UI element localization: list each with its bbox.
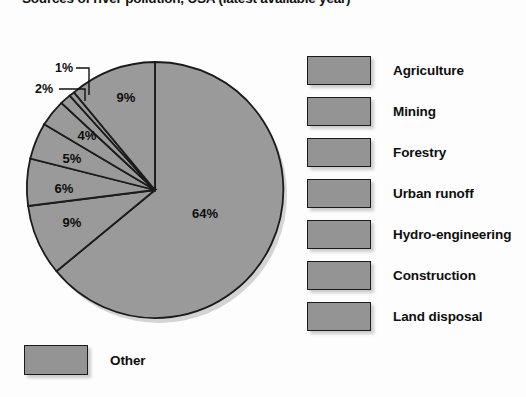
pie-label-urban-runoff: 4% (78, 128, 97, 143)
pie-label-land-disposal: 9% (117, 90, 136, 105)
legend-label-land-disposal: Land disposal (393, 309, 482, 324)
legend-swatch-land-disposal (307, 302, 371, 331)
legend-label-other: Other (110, 353, 146, 368)
legend-item-other[interactable]: Other (24, 345, 146, 375)
legend-swatch-mining (307, 97, 371, 126)
legend-item-land-disposal[interactable]: Land disposal (307, 296, 519, 337)
legend-swatch-construction (307, 261, 371, 290)
legend-item-construction[interactable]: Construction (307, 255, 519, 296)
pie-label-mining: 6% (55, 181, 74, 196)
legend-swatch-hydro-engineering (307, 220, 371, 249)
chart-page: Sources of river pollution, USA (latest … (0, 0, 526, 397)
legend-item-urban-runoff[interactable]: Urban runoff (307, 173, 519, 214)
legend-label-hydro-engineering: Hydro-engineering (393, 227, 511, 242)
legend-label-forestry: Forestry (393, 145, 446, 160)
legend-item-agriculture[interactable]: Agriculture (307, 50, 519, 91)
legend-swatch-forestry (307, 138, 371, 167)
legend-swatch-urban-runoff (307, 179, 371, 208)
legend-label-mining: Mining (393, 104, 436, 119)
legend-item-hydro-engineering[interactable]: Hydro-engineering (307, 214, 519, 255)
legend: Agriculture Mining Forestry Urban runoff… (307, 50, 519, 337)
pie-label-other: 9% (63, 215, 82, 230)
legend-item-forestry[interactable]: Forestry (307, 132, 519, 173)
pie-label-forestry: 5% (63, 151, 82, 166)
pie-label-hydro-engineering: 2% (35, 82, 53, 96)
pie-chart-svg: 64% 9% 6% 5% 4% 2% 1% 9% (0, 0, 330, 340)
legend-label-urban-runoff: Urban runoff (393, 186, 474, 201)
pie-label-agriculture: 64% (192, 206, 218, 221)
legend-label-agriculture: Agriculture (393, 63, 464, 78)
pie-chart: 64% 9% 6% 5% 4% 2% 1% 9% (0, 0, 330, 340)
legend-swatch-agriculture (307, 56, 371, 85)
legend-item-mining[interactable]: Mining (307, 91, 519, 132)
pie-label-construction: 1% (55, 61, 73, 75)
legend-label-construction: Construction (393, 268, 476, 283)
legend-swatch-other (24, 345, 88, 375)
